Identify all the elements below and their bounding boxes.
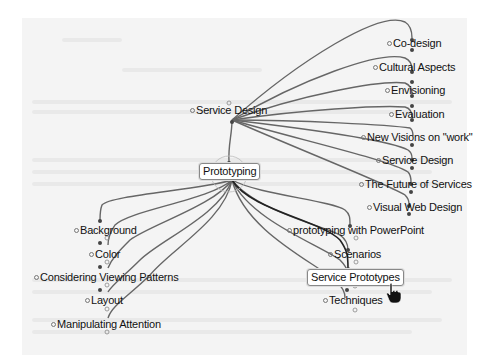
node-evaluation[interactable]: Evaluation bbox=[389, 108, 444, 121]
expand-handle-icon[interactable] bbox=[51, 322, 56, 327]
node-color[interactable]: Color bbox=[89, 248, 120, 261]
node-label: Service Design bbox=[382, 154, 453, 166]
node-label: Service Prototypes bbox=[311, 271, 400, 283]
expand-handle-icon[interactable] bbox=[287, 228, 292, 233]
node-new-visions-on-work[interactable]: New Visions on "work" bbox=[361, 131, 473, 144]
node-label: Envisioning bbox=[391, 84, 445, 96]
node-label: Cultural Aspects bbox=[379, 61, 455, 73]
expand-handle-icon[interactable] bbox=[328, 252, 333, 257]
node-techniques[interactable]: Techniques bbox=[323, 294, 383, 307]
expand-handle-icon[interactable] bbox=[359, 182, 364, 187]
node-scenarios[interactable]: Scenarios bbox=[328, 248, 381, 261]
node-label: The Future of Services bbox=[365, 178, 472, 190]
expand-handle-icon[interactable] bbox=[376, 158, 381, 163]
expand-handle-icon[interactable] bbox=[323, 298, 328, 303]
node-prototyping[interactable]: Prototyping bbox=[199, 163, 260, 180]
expand-handle-icon[interactable] bbox=[89, 252, 94, 257]
expand-handle-icon[interactable] bbox=[373, 65, 378, 70]
node-service-design-child[interactable]: Service Design bbox=[376, 154, 453, 167]
node-future-of-services[interactable]: The Future of Services bbox=[359, 178, 472, 191]
node-label: Evaluation bbox=[395, 108, 444, 120]
node-manipulating-attention[interactable]: Manipulating Attention bbox=[51, 318, 161, 331]
node-envisioning[interactable]: Envisioning bbox=[385, 84, 445, 97]
node-label: New Visions on "work" bbox=[367, 131, 473, 143]
expand-handle-icon[interactable] bbox=[387, 41, 392, 46]
expand-handle-icon[interactable] bbox=[74, 228, 79, 233]
expand-handle-icon[interactable] bbox=[361, 135, 366, 140]
expand-handle-icon[interactable] bbox=[34, 275, 39, 280]
hand-pointer-icon bbox=[386, 283, 402, 303]
node-visual-web-design[interactable]: Visual Web Design bbox=[367, 201, 462, 214]
node-prototyping-with-powerpoint[interactable]: prototyping with PowerPoint bbox=[287, 224, 424, 237]
expand-handle-icon[interactable] bbox=[85, 298, 90, 303]
node-label: Background bbox=[80, 224, 137, 236]
node-layout[interactable]: Layout bbox=[85, 294, 123, 307]
node-label: Prototyping bbox=[203, 165, 256, 177]
node-label: Service Design bbox=[196, 104, 267, 116]
expand-handle-icon[interactable] bbox=[389, 112, 394, 117]
node-label: Visual Web Design bbox=[373, 201, 462, 213]
node-background[interactable]: Background bbox=[74, 224, 137, 237]
node-label: prototyping with PowerPoint bbox=[293, 224, 424, 236]
expand-handle-icon[interactable] bbox=[190, 108, 195, 113]
expand-handle-icon[interactable] bbox=[367, 205, 372, 210]
node-label: Manipulating Attention bbox=[57, 318, 161, 330]
node-label: Color bbox=[95, 248, 120, 260]
node-co-design[interactable]: Co-design bbox=[387, 37, 441, 50]
node-service-design-root[interactable]: Service Design bbox=[190, 104, 267, 117]
node-label: Techniques bbox=[329, 294, 383, 306]
node-considering-viewing-patterns[interactable]: Considering Viewing Patterns bbox=[34, 271, 179, 284]
node-label: Scenarios bbox=[334, 248, 381, 260]
node-label: Co-design bbox=[393, 37, 441, 49]
node-cultural-aspects[interactable]: Cultural Aspects bbox=[373, 61, 455, 74]
node-label: Layout bbox=[91, 294, 123, 306]
expand-handle-icon[interactable] bbox=[385, 88, 390, 93]
node-label: Considering Viewing Patterns bbox=[40, 271, 179, 283]
